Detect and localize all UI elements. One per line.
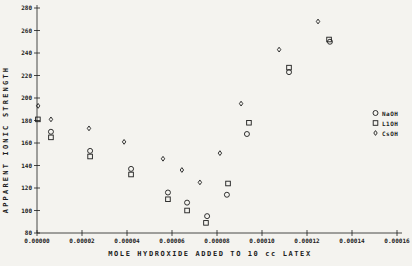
legend: NaOH L1OH CsOH bbox=[369, 108, 398, 138]
x-axis-title: MOLE HYDROXIDE ADDED TO 10 cc LATEX bbox=[85, 250, 335, 258]
data-point-naoh bbox=[165, 190, 170, 195]
data-point-l1oh bbox=[88, 154, 93, 159]
data-point-naoh bbox=[244, 132, 249, 137]
legend-label-csoh: CsOH bbox=[382, 130, 398, 137]
legend-diamond-glyph bbox=[374, 131, 377, 136]
x-tick-label: 0.00002 bbox=[69, 237, 95, 244]
x-tick-label: 0.00016 bbox=[384, 237, 410, 244]
legend-marker-naoh bbox=[369, 108, 382, 118]
legend-circle-icon bbox=[370, 108, 381, 118]
y-tick-label: 160 bbox=[21, 139, 32, 146]
y-tick-label: 260 bbox=[21, 27, 32, 34]
legend-row-naoh: NaOH bbox=[369, 108, 398, 118]
legend-diamond-icon bbox=[370, 128, 381, 138]
data-point-csoh bbox=[49, 117, 52, 122]
data-point-csoh bbox=[87, 126, 90, 131]
data-point-csoh bbox=[239, 101, 242, 106]
legend-square-glyph bbox=[373, 121, 378, 126]
x-tick-label: 0.00008 bbox=[204, 237, 230, 244]
y-tick-label: 100 bbox=[21, 207, 32, 214]
data-point-naoh bbox=[88, 148, 93, 153]
legend-row-csoh: CsOH bbox=[369, 128, 398, 138]
x-tick-label: 0.00000 bbox=[24, 237, 50, 244]
legend-label-naoh: NaOH bbox=[382, 110, 398, 117]
data-point-naoh bbox=[205, 214, 210, 219]
y-axis-title: APPARENT IONIC STRENGTH bbox=[2, 58, 11, 222]
y-tick-label: 280 bbox=[21, 4, 32, 11]
data-point-l1oh bbox=[49, 135, 54, 140]
x-tick-label: 0.00014 bbox=[339, 237, 365, 244]
x-tick-label: 0.00006 bbox=[159, 237, 185, 244]
data-point-csoh bbox=[277, 47, 280, 52]
figure: 801001201401601802002202402602800.000000… bbox=[0, 0, 412, 266]
legend-label-lioh: L1OH bbox=[382, 120, 398, 127]
y-tick-label: 180 bbox=[21, 117, 32, 124]
legend-circle-glyph bbox=[373, 111, 378, 116]
data-point-csoh bbox=[316, 19, 319, 24]
data-point-l1oh bbox=[247, 120, 252, 125]
y-tick-label: 240 bbox=[21, 49, 32, 56]
data-point-naoh bbox=[48, 129, 53, 134]
data-point-naoh bbox=[129, 166, 134, 171]
data-point-l1oh bbox=[166, 197, 171, 202]
y-tick-label: 220 bbox=[21, 72, 32, 79]
data-point-l1oh bbox=[129, 172, 134, 177]
data-point-csoh bbox=[198, 180, 201, 185]
x-tick-label: 0.00012 bbox=[294, 237, 320, 244]
y-tick-label: 80 bbox=[25, 229, 33, 236]
legend-marker-csoh bbox=[369, 128, 382, 138]
x-tick-label: 0.00004 bbox=[114, 237, 140, 244]
y-tick-label: 140 bbox=[21, 162, 32, 169]
data-point-l1oh bbox=[226, 181, 231, 186]
data-point-csoh bbox=[122, 139, 125, 144]
data-point-naoh bbox=[224, 192, 229, 197]
y-tick-label: 120 bbox=[21, 184, 32, 191]
data-point-naoh bbox=[185, 200, 190, 205]
data-point-csoh bbox=[180, 168, 183, 173]
legend-square-icon bbox=[370, 118, 381, 128]
data-point-l1oh bbox=[36, 117, 41, 122]
x-tick-label: 0.00010 bbox=[249, 237, 275, 244]
plot-canvas: 801001201401601802002202402602800.000000… bbox=[0, 0, 412, 266]
data-point-csoh bbox=[161, 156, 164, 161]
legend-row-lioh: L1OH bbox=[369, 118, 398, 128]
data-point-l1oh bbox=[185, 208, 190, 213]
data-point-csoh bbox=[218, 151, 221, 156]
legend-marker-lioh bbox=[369, 118, 382, 128]
data-point-l1oh bbox=[204, 221, 209, 226]
y-tick-label: 200 bbox=[21, 94, 32, 101]
